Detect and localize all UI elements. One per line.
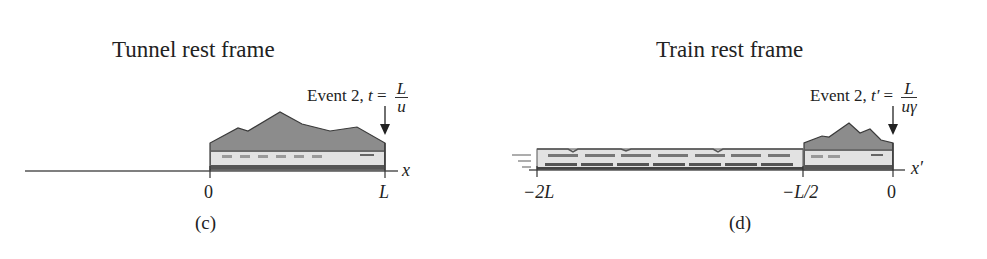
tick-minus-L-over-2: −L/2 [782, 182, 818, 203]
train-front-d [805, 149, 892, 169]
tick-L-c: L [379, 182, 389, 203]
event-arrow-icon [380, 106, 390, 135]
caption-c: (c) [195, 212, 216, 234]
tick-minus-2L: −2L [523, 182, 554, 203]
panel-tunnel-rest-frame: Tunnel rest frame Event 2, t = L u [0, 0, 493, 259]
axis-label-x-prime: x′ [911, 158, 923, 179]
tunnel-diagram-c [0, 0, 493, 259]
motion-lines-icon [512, 155, 531, 167]
axis-label-x: x [402, 160, 410, 181]
train-d [537, 149, 803, 170]
event-arrow-icon [888, 106, 898, 135]
tick-0-d: 0 [887, 182, 896, 203]
tick-0-c: 0 [204, 182, 213, 203]
train-c [211, 150, 384, 169]
panel-train-rest-frame: Train rest frame Event 2, t′ = L uγ [493, 0, 987, 259]
caption-d: (d) [729, 212, 751, 234]
